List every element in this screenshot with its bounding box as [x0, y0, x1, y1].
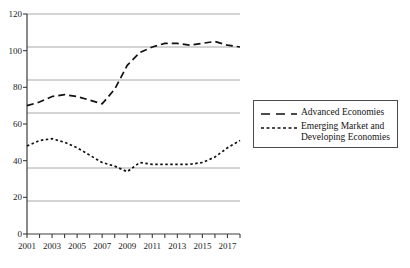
y-tick-label-0: 0 [0, 229, 22, 239]
legend-item-emerging-market: Emerging Market and Developing Economies [260, 121, 390, 143]
y-tick-label-80: 80 [0, 82, 22, 92]
data-series-group [27, 42, 240, 172]
x-tick-label-2017: 2017 [212, 241, 242, 251]
y-tick-label-100: 100 [0, 46, 22, 56]
series-line-advanced-economies [27, 42, 240, 106]
x-tick-marks [27, 234, 240, 238]
legend-label-advanced-economies: Advanced Economies [298, 107, 384, 118]
legend-item-advanced-economies: Advanced Economies [260, 107, 384, 118]
legend-label-emerging-market: Emerging Market and Developing Economies [298, 121, 390, 143]
dotted-line-swatch-icon [260, 126, 298, 130]
y-tick-label-120: 120 [0, 9, 22, 19]
series-line-emerging-market [27, 139, 240, 172]
dashed-line-swatch-icon [260, 112, 298, 116]
y-tick-label-60: 60 [0, 119, 22, 129]
y-tick-label-20: 20 [0, 192, 22, 202]
y-tick-label-40: 40 [0, 156, 22, 166]
chart-legend: Advanced Economies Emerging Market and D… [253, 100, 398, 148]
chart-figure: 020406080100120 200120032005200720092011… [0, 0, 410, 268]
